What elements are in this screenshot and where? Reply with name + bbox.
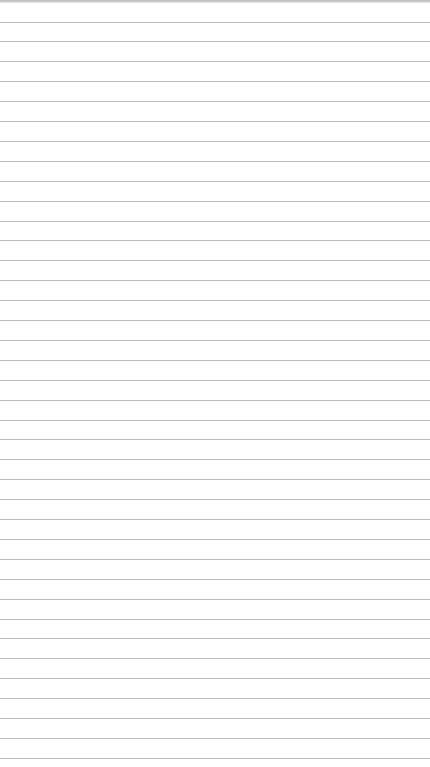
ruled-line	[0, 61, 430, 62]
ruled-line	[0, 22, 430, 23]
ruled-line	[0, 380, 430, 381]
ruled-line	[0, 638, 430, 639]
ruled-line	[0, 221, 430, 222]
ruled-line	[0, 539, 430, 540]
ruled-line	[0, 340, 430, 341]
ruled-line	[0, 559, 430, 560]
ruled-line	[0, 678, 430, 679]
ruled-line	[0, 599, 430, 600]
lined-paper	[0, 0, 430, 767]
ruled-line	[0, 81, 430, 82]
ruled-line	[0, 360, 430, 361]
ruled-line	[0, 579, 430, 580]
ruled-line	[0, 240, 430, 241]
ruled-line	[0, 619, 430, 620]
ruled-line	[0, 300, 430, 301]
ruled-line	[0, 400, 430, 401]
ruled-line	[0, 41, 430, 42]
ruled-line	[0, 439, 430, 440]
ruled-line	[0, 758, 430, 759]
ruled-line	[0, 499, 430, 500]
ruled-line	[0, 479, 430, 480]
ruled-line	[0, 141, 430, 142]
ruled-line	[0, 181, 430, 182]
ruled-line	[0, 658, 430, 659]
ruled-line	[0, 698, 430, 699]
ruled-line	[0, 738, 430, 739]
ruled-line	[0, 718, 430, 719]
ruled-line	[0, 121, 430, 122]
ruled-line	[0, 519, 430, 520]
top-edge-strip	[0, 0, 430, 3]
ruled-line	[0, 320, 430, 321]
ruled-line	[0, 201, 430, 202]
ruled-line	[0, 420, 430, 421]
ruled-line	[0, 161, 430, 162]
ruled-line	[0, 260, 430, 261]
ruled-line	[0, 459, 430, 460]
ruled-line	[0, 280, 430, 281]
ruled-line	[0, 101, 430, 102]
